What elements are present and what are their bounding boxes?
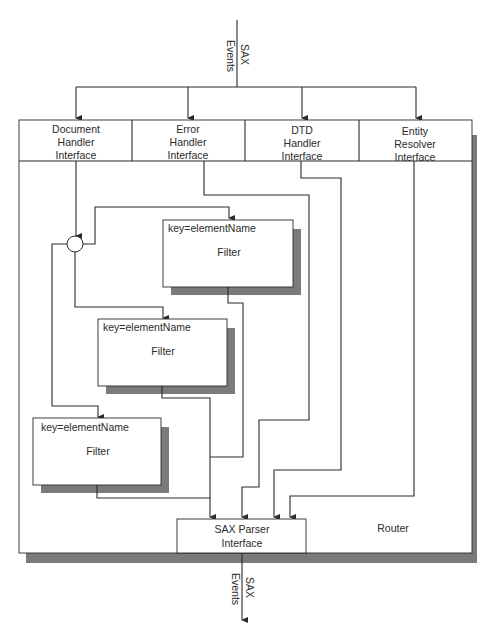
interface-document-line2: Handler bbox=[58, 136, 95, 148]
interface-dtd-line3: Interface bbox=[282, 150, 323, 162]
interface-document-line3: Interface bbox=[56, 149, 97, 161]
filter-1-key: key=elementName bbox=[168, 222, 256, 234]
filter-2-name: Filter bbox=[151, 345, 175, 357]
interface-error-line3: Interface bbox=[168, 149, 209, 161]
interface-entity-line3: Interface bbox=[395, 151, 436, 163]
filter-box-3: key=elementName Filter bbox=[33, 418, 169, 493]
interface-error-line2: Handler bbox=[170, 136, 207, 148]
distribution-bus bbox=[76, 87, 416, 118]
interface-dtd-line2: Handler bbox=[284, 137, 321, 149]
interface-dtd-line1: DTD bbox=[291, 124, 313, 136]
interface-entity-line1: Entity bbox=[402, 125, 429, 137]
input-events: SAX Events bbox=[225, 20, 251, 87]
filter-3-name: Filter bbox=[86, 445, 110, 457]
output-events: SAX Events bbox=[230, 553, 256, 620]
output-label-sax: SAX bbox=[244, 577, 256, 598]
interface-document-line1: Document bbox=[52, 123, 100, 135]
interface-error-line1: Error bbox=[176, 123, 200, 135]
filter-2-key: key=elementName bbox=[103, 321, 191, 333]
filter-1-name: Filter bbox=[217, 246, 241, 258]
interface-document: Document Handler Interface bbox=[52, 123, 100, 161]
input-label-sax: SAX bbox=[239, 44, 251, 65]
filter-box-2: key=elementName Filter bbox=[98, 319, 235, 394]
output-label-events: Events bbox=[230, 573, 242, 605]
parser-line1: SAX Parser bbox=[215, 523, 270, 535]
input-label-events: Events bbox=[225, 40, 237, 72]
filter-box-1: key=elementName Filter bbox=[163, 220, 301, 295]
interface-entity-line2: Resolver bbox=[394, 138, 436, 150]
router-diagram: SAX Events Router Document Handler Inter… bbox=[0, 0, 493, 630]
parser-line2: Interface bbox=[222, 537, 263, 549]
filter-3-key: key=elementName bbox=[41, 421, 129, 433]
dispatch-junction bbox=[67, 236, 83, 252]
sax-parser-interface: SAX Parser Interface bbox=[177, 519, 306, 553]
router-label: Router bbox=[377, 522, 409, 534]
